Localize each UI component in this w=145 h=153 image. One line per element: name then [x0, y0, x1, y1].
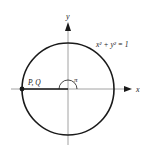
angle-label: π: [74, 76, 78, 84]
y-axis-label: y: [65, 12, 70, 21]
circle-equation-label: x² + y² = 1: [95, 40, 129, 49]
point-label: P, Q: [27, 78, 41, 87]
y-axis-arrow-icon: [65, 22, 71, 31]
point-pq: [20, 87, 25, 92]
x-axis-label: x: [135, 85, 140, 94]
unit-circle-diagram: x y x² + y² = 1 π P, Q: [0, 0, 145, 153]
x-axis-arrow-icon: [124, 86, 132, 92]
diagram-canvas: x y x² + y² = 1 π P, Q: [0, 0, 145, 153]
